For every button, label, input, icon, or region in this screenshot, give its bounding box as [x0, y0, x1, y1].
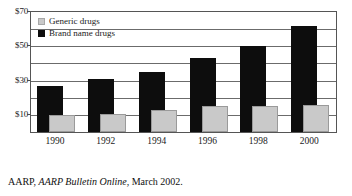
bar-generic-1992 — [100, 114, 126, 132]
bar-generic-1990 — [49, 115, 75, 132]
source-caption: AARP, AARP Bulletin Online, March 2002. — [8, 176, 183, 188]
caption-publication: AARP Bulletin Online — [39, 176, 127, 187]
y-tick-label-70: $70 — [0, 7, 28, 16]
x-tick-label-1992: 1992 — [81, 136, 131, 146]
y-tick-label-30: $30 — [0, 76, 28, 85]
legend-item-brand-name-drugs: Brand name drugs — [38, 28, 115, 38]
brand-swatch — [38, 30, 45, 37]
caption-organization: AARP, — [8, 176, 36, 187]
y-tick-label-50: $50 — [0, 41, 28, 50]
chart-legend: Generic drugsBrand name drugs — [38, 16, 115, 40]
x-tick-label-1994: 1994 — [132, 136, 182, 146]
x-tick-label-1998: 1998 — [233, 136, 283, 146]
x-tick-label-2000: 2000 — [284, 136, 334, 146]
generic-swatch — [38, 18, 45, 25]
y-tick-label-10: $10 — [0, 110, 28, 119]
legend-label: Generic drugs — [49, 16, 100, 26]
caption-date: , March 2002. — [127, 176, 183, 187]
legend-label: Brand name drugs — [49, 28, 115, 38]
x-tick-label-1996: 1996 — [183, 136, 233, 146]
bar-generic-2000 — [303, 105, 329, 132]
bar-generic-1996 — [202, 106, 228, 132]
x-tick-label-1990: 1990 — [30, 136, 80, 146]
bar-generic-1994 — [151, 110, 177, 132]
legend-item-generic-drugs: Generic drugs — [38, 16, 115, 26]
figure: $10$30$50$70 Generic drugsBrand name dru… — [0, 0, 352, 196]
bar-generic-1998 — [252, 106, 278, 132]
